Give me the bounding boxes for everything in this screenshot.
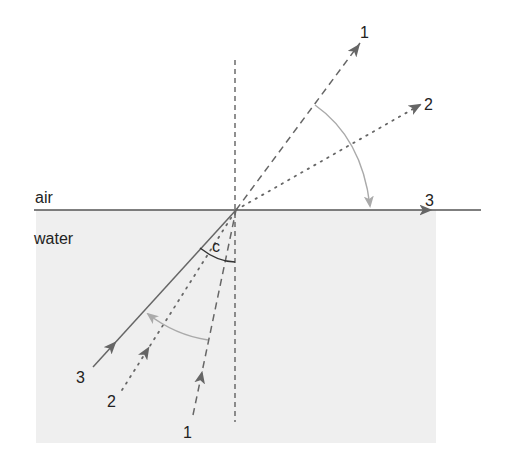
water-label: water <box>33 230 74 247</box>
ray-1-out-label: 1 <box>360 24 369 41</box>
ray-2-in-label: 2 <box>107 393 116 410</box>
refraction-diagram: air water c 1 2 3 1 2 3 <box>0 0 508 469</box>
upper-rotation-arc <box>315 105 370 206</box>
ray-2-out-label: 2 <box>424 96 433 113</box>
ray-3-in-label: 3 <box>76 369 85 386</box>
ray-3-out-label: 3 <box>425 192 434 209</box>
air-label: air <box>35 189 53 206</box>
water-region <box>36 210 436 443</box>
angle-c-label: c <box>212 238 220 255</box>
ray-1-in-label: 1 <box>183 424 192 441</box>
